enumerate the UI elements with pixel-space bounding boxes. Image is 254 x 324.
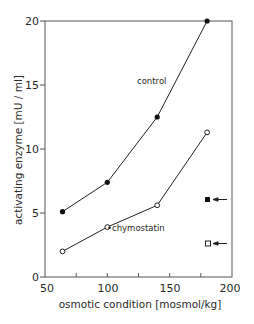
left-arrow-icon	[213, 242, 227, 245]
control-markers	[60, 18, 210, 214]
y-axis-title: activating enzyme [mU / ml]	[12, 75, 24, 225]
chymostatin-markers	[60, 130, 209, 254]
data-point	[60, 249, 65, 254]
chymostatin-label: •chymostatin	[107, 223, 165, 233]
open-square-marker	[206, 241, 211, 246]
data-point	[205, 18, 210, 23]
plot-frame	[45, 21, 232, 277]
control-line	[63, 21, 208, 212]
y-tick-label: 20	[25, 15, 39, 28]
y-tick-label: 15	[25, 79, 39, 92]
x-tick-labels: 50 100 150 200	[40, 282, 241, 295]
y-tick-labels: 0 5 10 15 20	[25, 15, 39, 284]
y-tick-label: 10	[25, 143, 39, 156]
x-tick-label: 200	[220, 282, 241, 295]
chart: 0 5 10 15 20 50 100 150 200 osmotic cond…	[0, 0, 254, 324]
chymostatin-line	[63, 132, 208, 251]
data-point	[155, 203, 160, 208]
filled-square-marker	[205, 197, 210, 202]
data-point	[105, 180, 110, 185]
data-point	[60, 209, 65, 214]
x-tick-label: 100	[98, 282, 119, 295]
left-arrow-icon	[213, 198, 227, 201]
data-point	[205, 130, 210, 135]
x-tick-label: 50	[40, 282, 54, 295]
y-tick-label: 5	[32, 207, 39, 220]
x-axis-title: osmotic condition [mosmol/kg]	[59, 298, 222, 310]
data-point	[155, 114, 160, 119]
y-tick-label: 0	[32, 271, 39, 284]
y-axis	[40, 21, 45, 277]
x-tick-label: 150	[160, 282, 181, 295]
x-axis	[76, 273, 201, 277]
control-label: control	[137, 76, 166, 86]
